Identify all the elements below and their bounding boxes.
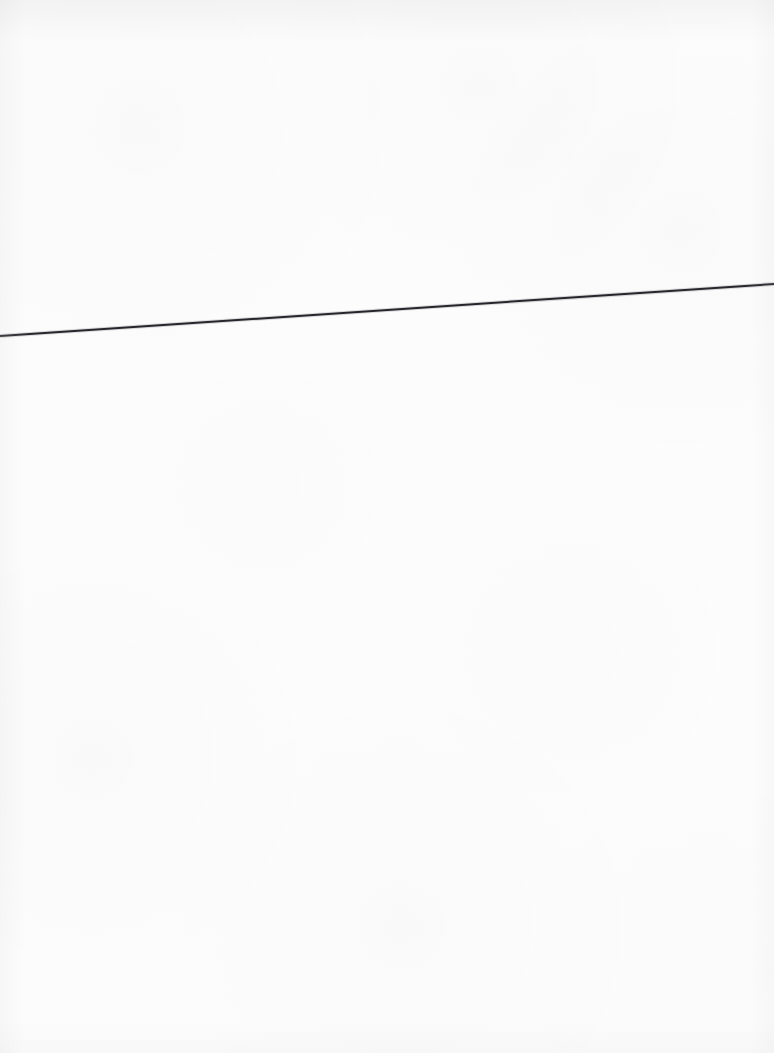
paper-surface	[0, 0, 774, 1053]
scanned-page	[0, 0, 774, 1053]
